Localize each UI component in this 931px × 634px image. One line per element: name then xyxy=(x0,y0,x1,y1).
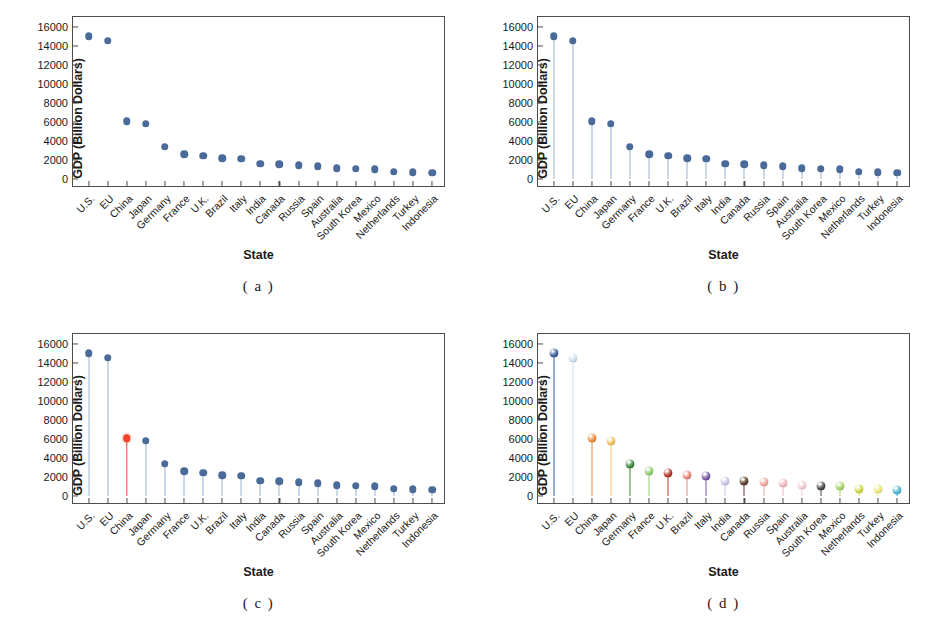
x-tick-mark xyxy=(203,181,204,186)
data-point-marker xyxy=(295,161,303,169)
data-point-marker xyxy=(161,143,169,151)
data-point-marker xyxy=(741,160,749,168)
x-tick-mark xyxy=(553,498,554,503)
data-point-marker xyxy=(874,169,882,177)
x-axis-title: State xyxy=(72,565,445,579)
y-tick-mark xyxy=(538,477,543,478)
x-tick-mark xyxy=(260,498,261,503)
y-tick-label: 4000 xyxy=(509,136,538,147)
data-point-marker xyxy=(352,482,360,490)
x-tick-mark xyxy=(668,181,669,186)
data-point-marker xyxy=(199,152,207,160)
data-point-marker xyxy=(817,165,825,173)
data-point-marker xyxy=(85,349,93,357)
x-tick-mark xyxy=(744,498,745,503)
y-tick-label: 6000 xyxy=(44,434,73,445)
y-tick-label: 4000 xyxy=(509,453,538,464)
data-point-marker xyxy=(218,155,226,163)
x-tick-mark xyxy=(706,498,707,503)
y-tick-label: 8000 xyxy=(509,97,538,108)
plot-area-b: GDP (Billion Dollars)0200040006000800010… xyxy=(537,16,910,187)
data-point-marker xyxy=(607,120,615,128)
data-point-sphere xyxy=(893,485,902,494)
y-tick-mark xyxy=(538,458,543,459)
data-point-marker xyxy=(836,166,844,174)
stem-line xyxy=(572,41,573,180)
y-tick-label: 0 xyxy=(527,174,538,185)
stem-line xyxy=(591,121,592,179)
data-point-marker xyxy=(238,472,246,480)
x-tick-mark xyxy=(897,181,898,186)
data-point-marker xyxy=(104,37,112,45)
x-tick-mark xyxy=(687,498,688,503)
x-tick-mark xyxy=(393,498,394,503)
x-tick-mark xyxy=(782,498,783,503)
data-point-sphere xyxy=(606,436,615,445)
data-point-sphere xyxy=(664,468,673,477)
data-point-marker xyxy=(409,486,417,494)
x-axis-title: State xyxy=(537,248,910,262)
y-tick-mark xyxy=(73,458,78,459)
x-tick-mark xyxy=(725,181,726,186)
data-point-marker xyxy=(855,168,863,176)
data-point-marker xyxy=(123,117,131,125)
x-tick-mark xyxy=(222,181,223,186)
stem-line xyxy=(88,353,89,496)
y-tick-mark xyxy=(538,381,543,382)
x-tick-mark xyxy=(145,498,146,503)
x-tick-mark xyxy=(725,498,726,503)
x-tick-mark xyxy=(629,498,630,503)
data-point-marker xyxy=(161,460,169,468)
data-point-marker xyxy=(703,155,711,163)
y-tick-mark xyxy=(538,26,543,27)
x-tick-mark xyxy=(572,498,573,503)
y-tick-mark xyxy=(73,496,78,497)
y-tick-mark xyxy=(73,179,78,180)
data-point-marker xyxy=(409,169,417,177)
x-tick-mark xyxy=(801,498,802,503)
x-tick-mark xyxy=(668,498,669,503)
y-tick-label: 12000 xyxy=(502,59,538,70)
y-tick-mark xyxy=(538,141,543,142)
plot-area-a: GDP (Billion Dollars)0200040006000800010… xyxy=(72,16,445,187)
x-tick-mark xyxy=(183,181,184,186)
panel-c: GDP (Billion Dollars)0200040006000800010… xyxy=(0,317,465,634)
y-tick-mark xyxy=(73,400,78,401)
y-tick-mark xyxy=(73,160,78,161)
data-point-sphere xyxy=(721,476,730,485)
x-tick-mark xyxy=(591,181,592,186)
data-point-marker xyxy=(314,479,322,487)
data-point-sphere xyxy=(740,477,749,486)
x-tick-mark xyxy=(88,498,89,503)
x-tick-mark xyxy=(355,498,356,503)
x-tick-mark xyxy=(298,498,299,503)
y-tick-label: 10000 xyxy=(37,395,73,406)
data-point-marker xyxy=(626,143,634,151)
data-point-marker xyxy=(276,160,284,168)
stem-line xyxy=(107,358,108,497)
y-tick-mark xyxy=(73,477,78,478)
x-tick-mark xyxy=(858,498,859,503)
data-point-sphere xyxy=(778,479,787,488)
y-tick-mark xyxy=(73,343,78,344)
y-tick-mark xyxy=(73,439,78,440)
y-tick-mark xyxy=(538,102,543,103)
panel-b: GDP (Billion Dollars)0200040006000800010… xyxy=(465,0,931,317)
data-point-sphere xyxy=(873,485,882,494)
data-point-sphere xyxy=(816,481,825,490)
x-tick-mark xyxy=(763,181,764,186)
y-tick-mark xyxy=(538,160,543,161)
data-point-sphere xyxy=(645,467,654,476)
y-tick-mark xyxy=(73,122,78,123)
data-point-marker xyxy=(104,354,112,362)
x-tick-mark xyxy=(279,498,280,503)
data-point-marker xyxy=(645,150,653,158)
x-tick-mark xyxy=(687,181,688,186)
data-point-marker xyxy=(798,165,806,173)
stem-line xyxy=(553,353,554,496)
y-tick-label: 8000 xyxy=(509,414,538,425)
x-tick-mark xyxy=(432,498,433,503)
data-point-sphere xyxy=(759,478,768,487)
x-tick-mark xyxy=(839,181,840,186)
data-point-marker xyxy=(390,168,398,176)
